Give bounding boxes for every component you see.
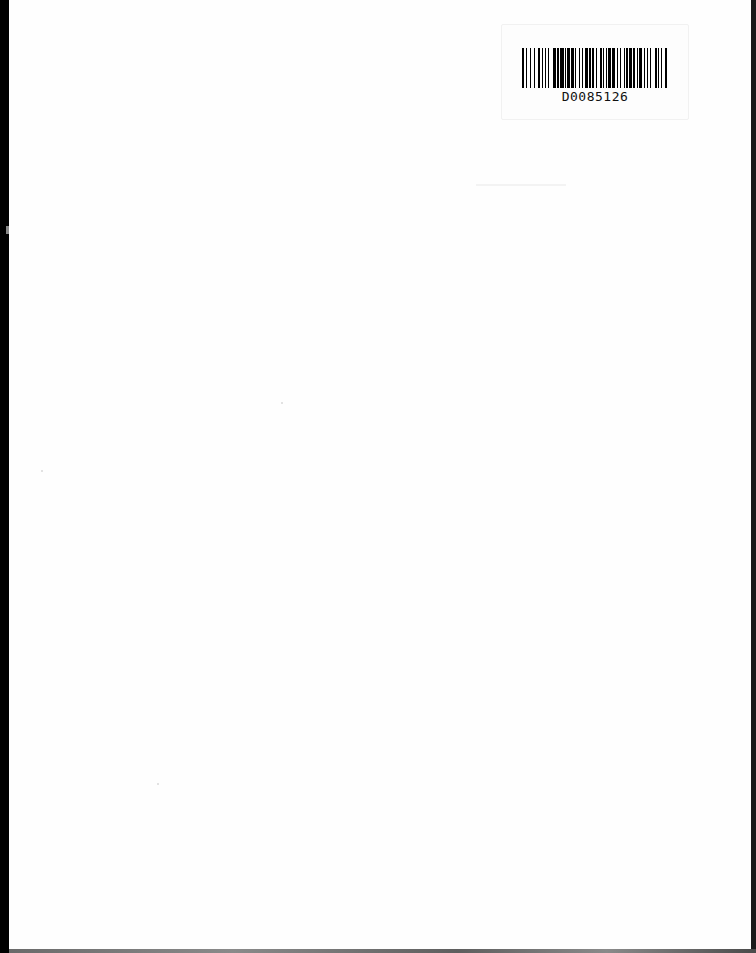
barcode-space (667, 48, 669, 88)
scan-bottom-edge (9, 949, 756, 953)
barcode-id-text: D0085126 (502, 89, 688, 104)
dust-speck (41, 470, 43, 472)
dust-speck (281, 402, 283, 404)
barcode (522, 48, 670, 88)
scan-right-edge (751, 0, 756, 953)
scan-edge-artifact (6, 226, 9, 234)
faint-scan-mark (476, 184, 566, 186)
barcode-label: D0085126 (501, 24, 689, 120)
dust-speck (157, 783, 159, 785)
scanned-page: D0085126 (0, 0, 756, 953)
document-page: D0085126 (9, 0, 751, 949)
